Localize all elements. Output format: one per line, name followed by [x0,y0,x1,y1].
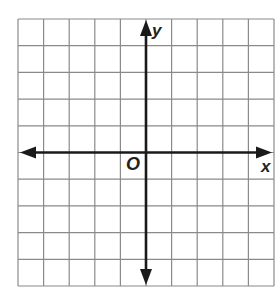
y-axis-up-arrow-icon [140,20,152,36]
y-axis-label: y [151,21,163,40]
x-axis-left-arrow-icon [20,147,36,159]
y-axis-down-arrow-icon [140,269,152,285]
coordinate-plane: y x O [0,0,280,300]
x-axis-label: x [260,157,272,176]
origin-label: O [126,154,140,174]
